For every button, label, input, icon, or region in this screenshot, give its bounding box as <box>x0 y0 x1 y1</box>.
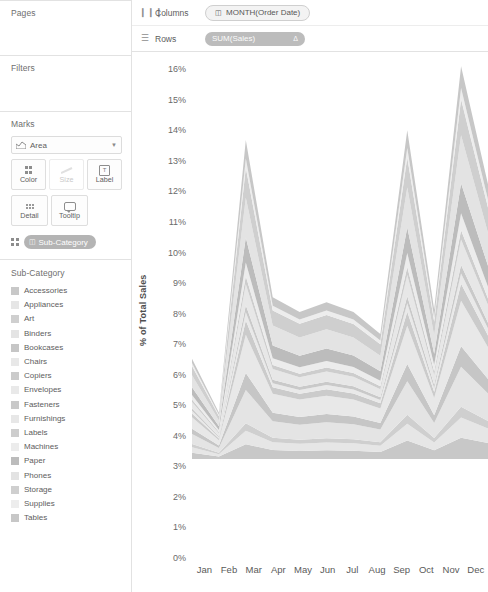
legend-swatch <box>11 301 19 309</box>
legend-swatch <box>11 386 19 394</box>
x-axis-ticks: JanFebMarAprMayJunJulAugSepOctNovDec <box>192 564 488 578</box>
y-axis-tick-label: 4% <box>146 431 186 441</box>
legend-item[interactable]: Envelopes <box>11 383 122 397</box>
legend-item[interactable]: Accessories <box>11 284 122 298</box>
y-axis-tick-label: 14% <box>146 125 186 135</box>
mark-buttons-row-2: Detail Tooltip <box>11 195 122 226</box>
legend-item-label: Labels <box>24 428 48 438</box>
color-legend-card: Sub-Category AccessoriesAppliancesArtBin… <box>0 260 131 592</box>
legend-item[interactable]: Binders <box>11 327 122 341</box>
x-axis-tick-label: Aug <box>365 564 390 578</box>
y-axis-tick-label: 7% <box>146 339 186 349</box>
chart-plot-area: % of Total Sales 16%15%14%13%12%11%10%9%… <box>132 54 488 592</box>
legend-swatch <box>11 472 19 480</box>
tooltip-button[interactable]: Tooltip <box>51 195 88 226</box>
legend-item[interactable]: Bookcases <box>11 341 122 355</box>
legend-swatch <box>11 344 19 352</box>
mark-buttons-row-1: Color Size T Label <box>11 159 122 190</box>
chevron-down-icon[interactable]: ▼ <box>111 142 117 148</box>
y-axis-tick-label: 9% <box>146 278 186 288</box>
worksheet: ❙❙❙ Columns ◫ MONTH(Order Date) ☰ Rows S… <box>131 0 488 592</box>
legend-swatch <box>11 457 19 465</box>
y-axis-tick-label: 12% <box>146 186 186 196</box>
legend-item[interactable]: Phones <box>11 468 122 482</box>
columns-pill[interactable]: ◫ MONTH(Order Date) <box>205 5 310 21</box>
mark-type-dropdown[interactable]: Area ▼ <box>11 136 122 154</box>
marks-subcategory-pill[interactable]: ◫ Sub-Category <box>24 235 96 249</box>
legend-item-label: Machines <box>24 442 58 452</box>
discrete-field-icon: ◫ <box>29 238 36 246</box>
legend-item[interactable]: Appliances <box>11 298 122 312</box>
legend-item-label: Storage <box>24 485 52 495</box>
legend-item-label: Paper <box>24 456 45 466</box>
rows-shelf-icon: ☰ <box>139 34 151 43</box>
pages-card-title: Pages <box>11 8 122 19</box>
legend-swatch <box>11 287 19 295</box>
legend-swatch <box>11 429 19 437</box>
legend-item[interactable]: Tables <box>11 511 122 525</box>
label-button-label: Label <box>96 176 114 184</box>
y-axis-tick-label: 11% <box>146 217 186 227</box>
y-axis-tick-label: 16% <box>146 64 186 74</box>
y-axis-tick-label: 10% <box>146 248 186 258</box>
filters-card-title: Filters <box>11 63 122 74</box>
legend-item[interactable]: Paper <box>11 454 122 468</box>
legend-swatch <box>11 443 19 451</box>
columns-shelf-icon: ❙❙❙ <box>139 8 151 17</box>
legend-item[interactable]: Labels <box>11 426 122 440</box>
x-axis-tick-label: Nov <box>439 564 464 578</box>
legend-swatch <box>11 372 19 380</box>
label-button[interactable]: T Label <box>87 159 122 190</box>
rows-pill[interactable]: SUM(Sales) Δ <box>205 32 305 46</box>
color-dots-icon <box>25 166 33 175</box>
legend-swatch <box>11 401 19 409</box>
legend-item[interactable]: Supplies <box>11 497 122 511</box>
x-axis-tick-label: Jun <box>315 564 340 578</box>
mark-type-label: Area <box>30 141 111 150</box>
columns-shelf[interactable]: ❙❙❙ Columns ◫ MONTH(Order Date) <box>132 0 488 26</box>
legend-item-label: Phones <box>24 471 51 481</box>
y-axis-tick-label: 5% <box>146 400 186 410</box>
x-axis-tick-label: Sep <box>389 564 414 578</box>
marks-encoding-row: ◫ Sub-Category <box>11 235 122 249</box>
legend-swatch <box>11 415 19 423</box>
tooltip-button-label: Tooltip <box>59 212 80 220</box>
detail-button-label: Detail <box>20 212 38 220</box>
legend-item[interactable]: Storage <box>11 483 122 497</box>
legend-item[interactable]: Art <box>11 312 122 326</box>
y-axis-tick-label: 6% <box>146 370 186 380</box>
rows-shelf[interactable]: ☰ Rows SUM(Sales) Δ <box>132 26 488 52</box>
color-button[interactable]: Color <box>11 159 46 190</box>
pages-card[interactable]: Pages <box>0 0 131 56</box>
y-axis-tick-label: 13% <box>146 156 186 166</box>
legend-item[interactable]: Machines <box>11 440 122 454</box>
legend-swatch <box>11 514 19 522</box>
legend-item[interactable]: Chairs <box>11 355 122 369</box>
size-button[interactable]: Size <box>49 159 84 190</box>
legend-swatch <box>11 315 19 323</box>
left-rail: Pages Filters Marks Area ▼ Color <box>0 0 131 592</box>
y-axis-tick-label: 15% <box>146 95 186 105</box>
legend-item[interactable]: Copiers <box>11 369 122 383</box>
x-axis-tick-label: Dec <box>463 564 488 578</box>
legend-item-label: Tables <box>24 513 47 523</box>
y-axis-ticks: 16%15%14%13%12%11%10%9%8%7%6%5%4%3%2%1%0… <box>142 54 186 592</box>
legend-item[interactable]: Furnishings <box>11 412 122 426</box>
stacked-area-chart <box>192 54 488 459</box>
x-axis-tick-label: Mar <box>241 564 266 578</box>
rows-pill-label: SUM(Sales) <box>212 34 255 43</box>
size-button-label: Size <box>60 176 74 184</box>
tooltip-icon <box>64 202 76 211</box>
legend-item-label: Appliances <box>24 300 63 310</box>
x-axis-tick-label: May <box>291 564 316 578</box>
y-axis-tick-label: 0% <box>146 553 186 563</box>
y-axis-tick-label: 2% <box>146 492 186 502</box>
legend-item-label: Chairs <box>24 357 47 367</box>
rows-shelf-label: Rows <box>155 34 205 44</box>
detail-button[interactable]: Detail <box>11 195 48 226</box>
columns-shelf-label: Columns <box>155 8 205 18</box>
legend-item[interactable]: Fasteners <box>11 398 122 412</box>
filters-card[interactable]: Filters <box>0 56 131 112</box>
calendar-field-icon: ◫ <box>215 9 222 17</box>
y-axis-tick-label: 1% <box>146 522 186 532</box>
